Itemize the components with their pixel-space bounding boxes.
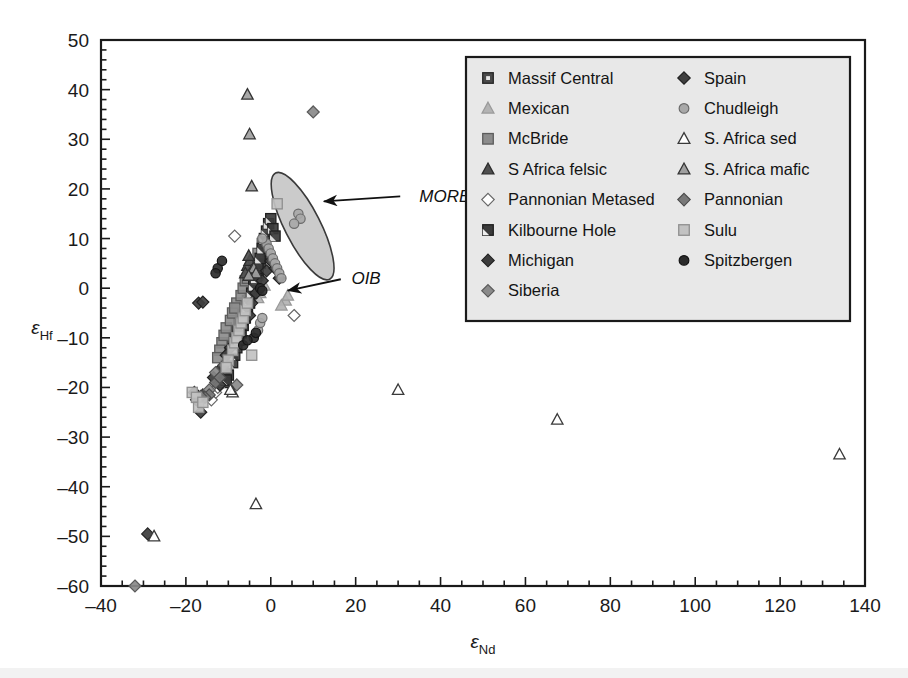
point-circle: [243, 336, 252, 345]
y-tick-label: –50: [57, 526, 89, 547]
point-circle: [258, 286, 267, 295]
y-tick-label: 10: [68, 229, 89, 250]
x-axis-title: εNd: [471, 631, 496, 657]
x-tick-label: 20: [345, 595, 366, 616]
point-circle: [289, 219, 298, 228]
annotation-label-OIB: OIB: [351, 269, 380, 288]
point-square-notch-inner: [486, 76, 490, 80]
point-square: [679, 225, 690, 236]
y-tick-label: 40: [68, 80, 89, 101]
x-tick-label: 140: [849, 595, 881, 616]
figure-container: –40–2002040608010012014050403020100–10–2…: [0, 0, 908, 678]
legend-label: Chudleigh: [704, 99, 778, 117]
point-circle: [277, 274, 286, 283]
x-tick-label: –20: [170, 595, 202, 616]
point-square: [247, 350, 257, 360]
point-circle: [679, 256, 689, 266]
legend-label: Michigan: [508, 251, 574, 269]
y-tick-label: 0: [78, 278, 89, 299]
annotation-label-MORB: MORB: [419, 187, 470, 206]
point-diamond: [307, 106, 319, 118]
legend-label: Pannonian: [704, 190, 783, 208]
y-tick-label: –40: [57, 477, 89, 498]
point-triangle: [250, 498, 261, 509]
legend-label: S. Africa mafic: [704, 160, 809, 178]
legend: Massif CentralMexicanMcBrideS Africa fel…: [466, 57, 850, 321]
legend-label: McBride: [508, 129, 569, 147]
point-diamond: [288, 309, 300, 321]
point-circle: [217, 256, 226, 265]
legend-label: Pannonian Metased: [508, 190, 655, 208]
point-square: [242, 298, 252, 308]
y-tick-label: 30: [68, 129, 89, 150]
point-diamond: [129, 580, 141, 592]
point-circle: [258, 234, 267, 243]
x-tick-label: 120: [764, 595, 796, 616]
x-tick-label: 0: [265, 595, 276, 616]
x-tick-label: –40: [85, 595, 117, 616]
point-triangle: [242, 89, 253, 100]
point-triangle: [834, 448, 845, 459]
point-triangle: [282, 290, 293, 301]
y-tick-label: –30: [57, 427, 89, 448]
legend-label: Massif Central: [508, 69, 613, 87]
point-diamond: [229, 230, 241, 242]
point-circle: [258, 313, 267, 322]
legend-label: Spitzbergen: [704, 251, 792, 269]
point-circle: [679, 104, 689, 114]
y-tick-label: 20: [68, 179, 89, 200]
point-triangle: [244, 128, 255, 139]
x-tick-label: 100: [679, 595, 711, 616]
legend-label: Sulu: [704, 221, 737, 239]
legend-label: Siberia: [508, 281, 560, 299]
point-square: [221, 363, 231, 373]
point-circle: [251, 328, 260, 337]
legend-label: S Africa felsic: [508, 160, 607, 178]
point-square: [230, 303, 240, 313]
legend-label: Kilbourne Hole: [508, 221, 616, 239]
point-square: [483, 134, 494, 145]
y-tick-label: –60: [57, 576, 89, 597]
legend-label: Spain: [704, 69, 746, 87]
x-tick-label: 40: [430, 595, 451, 616]
scatter-plot: –40–2002040608010012014050403020100–10–2…: [0, 0, 908, 678]
annotation-arrow-MORB: [324, 196, 400, 201]
page-footer-bar: [0, 668, 908, 678]
y-tick-label: –10: [57, 328, 89, 349]
series-s-africa-sed: [148, 384, 845, 541]
y-tick-label: –20: [57, 377, 89, 398]
point-square: [272, 199, 282, 209]
x-tick-label: 80: [600, 595, 621, 616]
legend-item-pannonian-metased[interactable]: Pannonian Metased: [482, 190, 655, 208]
point-circle: [211, 269, 220, 278]
point-triangle: [246, 180, 257, 191]
x-tick-label: 60: [515, 595, 536, 616]
y-axis-title: εHf: [31, 317, 53, 343]
point-square: [198, 397, 208, 407]
legend-label: S. Africa sed: [704, 129, 797, 147]
legend-label: Mexican: [508, 99, 569, 117]
point-triangle: [392, 384, 403, 395]
annotation-arrow-OIB: [288, 279, 341, 290]
series-michigan: [142, 297, 228, 540]
point-triangle: [552, 414, 563, 425]
y-tick-label: 50: [68, 30, 89, 51]
